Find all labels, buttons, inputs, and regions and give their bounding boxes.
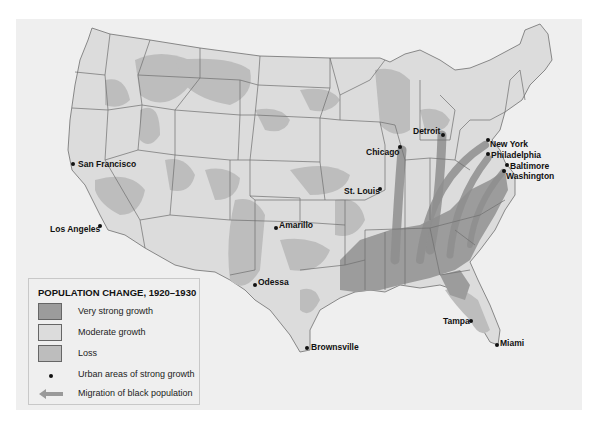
city-label-st-louis: St. Louis <box>344 186 380 196</box>
city-dot-miami <box>495 343 499 347</box>
swatch-very-strong-growth <box>38 303 62 320</box>
city-label-philadelphia: Philadelphia <box>491 150 541 160</box>
city-label-brownsville: Brownsville <box>311 342 359 352</box>
legend-label: Very strong growth <box>78 306 153 316</box>
city-label-tampa: Tampa <box>443 316 470 326</box>
legend-label: Urban areas of strong growth <box>78 369 195 379</box>
city-dot-san-francisco <box>71 162 75 166</box>
legend-item-loss: Loss <box>38 345 198 363</box>
city-label-amarillo: Amarillo <box>279 220 313 230</box>
legend-item-urban-areas: Urban areas of strong growth <box>38 366 198 384</box>
city-dot-baltimore <box>505 163 509 167</box>
city-dot-detroit <box>441 133 445 137</box>
city-dot-philadelphia <box>486 152 490 156</box>
legend-item-very-strong-growth: Very strong growth <box>38 303 198 321</box>
city-dot-amarillo <box>274 226 278 230</box>
legend-label: Migration of black population <box>78 388 193 398</box>
city-label-chicago: Chicago <box>366 147 400 157</box>
city-dot-brownsville <box>305 346 309 350</box>
legend-item-migration: Migration of black population <box>38 385 198 403</box>
city-label-baltimore: Baltimore <box>510 161 549 171</box>
swatch-loss <box>38 345 62 362</box>
city-label-odessa: Odessa <box>258 277 289 287</box>
swatch-moderate-growth <box>38 324 62 341</box>
city-label-washington: Washington <box>506 171 554 181</box>
legend-label: Loss <box>78 348 97 358</box>
city-label-detroit: Detroit <box>413 126 440 136</box>
city-label-los-angeles: Los Angeles <box>50 224 100 234</box>
legend-label: Moderate growth <box>78 327 146 337</box>
city-label-new-york: New York <box>490 139 528 149</box>
legend-title: POPULATION CHANGE, 1920–1930 <box>38 287 196 298</box>
urban-dot-icon <box>49 374 53 378</box>
city-label-miami: Miami <box>500 338 524 348</box>
migration-arrow-icon <box>38 389 64 399</box>
city-dot-odessa <box>253 283 257 287</box>
city-label-san-francisco: San Francisco <box>78 159 136 169</box>
map-legend: POPULATION CHANGE, 1920–1930 Very strong… <box>28 278 200 405</box>
legend-item-moderate-growth: Moderate growth <box>38 324 198 342</box>
